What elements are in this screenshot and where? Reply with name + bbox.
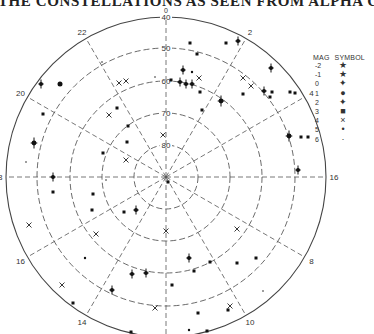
- star-marker: [228, 304, 233, 309]
- star-marker: [307, 136, 310, 139]
- star-marker: [101, 61, 103, 63]
- hour-spoke: [166, 38, 246, 177]
- hour-label: 20: [16, 89, 25, 98]
- star-marker: [84, 257, 86, 259]
- star-marker: [201, 109, 204, 112]
- star-marker: [235, 227, 240, 232]
- star-marker: [236, 262, 239, 265]
- legend-row: 4×: [313, 116, 365, 125]
- star-marker: [105, 179, 107, 181]
- star-marker: [241, 76, 246, 81]
- star-marker: [50, 173, 55, 182]
- star-marker: [242, 93, 245, 96]
- legend-mag-value: 2: [313, 99, 333, 106]
- hour-label: 16: [16, 257, 25, 266]
- legend-mag-value: 1: [313, 90, 333, 97]
- star-marker: [183, 80, 188, 89]
- star-marker: [161, 133, 166, 138]
- hour-spoke: [86, 177, 166, 316]
- star-marker: [133, 206, 138, 215]
- star-marker: [116, 107, 119, 110]
- star-marker: [177, 78, 182, 87]
- star-marker: [153, 306, 158, 311]
- hour-label: 14: [78, 318, 87, 327]
- star-marker: [60, 283, 65, 288]
- star-marker: [58, 82, 63, 87]
- hour-spoke: [27, 97, 166, 177]
- legend-mag-value: -2: [313, 62, 333, 69]
- magnitude-legend: MAG SYMBOL -2★-1★0✦1●2✦3■4×5•6·: [313, 54, 365, 144]
- legend-mag-value: 3: [313, 108, 333, 115]
- star-marker: [199, 91, 202, 94]
- star-marker: [225, 42, 228, 45]
- legend-mag-value: 0: [313, 80, 333, 87]
- hour-spoke: [86, 38, 166, 177]
- legend-row: 2✦: [313, 98, 365, 107]
- star-marker: [196, 53, 199, 56]
- star-marker: [289, 91, 292, 94]
- star-marker: [126, 141, 129, 144]
- star-marker: [249, 84, 254, 89]
- star-marker: [31, 138, 38, 149]
- hour-spoke: [166, 177, 246, 316]
- hour-spoke: [166, 97, 305, 177]
- legend-row: 3■: [313, 107, 365, 116]
- star-marker: [91, 209, 94, 212]
- star-marker: [127, 125, 130, 128]
- star-marker: [191, 71, 193, 73]
- star-marker: [167, 181, 170, 184]
- star-marker: [72, 302, 75, 305]
- star-marker: [94, 232, 99, 237]
- star-marker: [171, 284, 174, 287]
- star-marker: [123, 211, 126, 214]
- hour-label: 8: [309, 257, 314, 266]
- star-marker: [227, 309, 230, 312]
- star-marker: [109, 286, 114, 295]
- hour-label: 16: [330, 173, 339, 182]
- star-marker: [189, 42, 192, 45]
- hour-label: 2: [248, 28, 253, 37]
- star-marker: [206, 330, 209, 333]
- legend-mag-header: MAG: [313, 54, 330, 61]
- star-marker: [262, 290, 264, 292]
- star-marker: [102, 152, 105, 155]
- star-marker: [143, 269, 148, 278]
- star-marker: [170, 79, 173, 82]
- hour-label: 0: [164, 7, 168, 14]
- star-marker: [42, 113, 45, 116]
- star-chart: 4050607080024168101416182022: [0, 0, 374, 334]
- star-marker: [124, 158, 129, 163]
- star-marker: [188, 329, 190, 331]
- star-marker: [197, 76, 202, 81]
- star-marker: [52, 191, 55, 194]
- star-marker: [186, 254, 191, 263]
- star-marker: [294, 92, 297, 95]
- hour-spoke: [166, 177, 305, 257]
- star-marker: [129, 270, 134, 279]
- hour-label: 10: [246, 318, 255, 327]
- star-marker: [271, 91, 274, 94]
- star-marker: [27, 223, 32, 228]
- star-marker: [261, 87, 266, 96]
- star-marker: [286, 131, 293, 142]
- star-marker: [255, 257, 258, 260]
- hour-label: 18: [0, 173, 3, 182]
- legend-row: 0✦: [313, 79, 365, 88]
- legend-row: 5•: [313, 125, 365, 134]
- star-marker: [269, 96, 272, 99]
- star-marker: [117, 81, 122, 86]
- legend-row: 6·: [313, 135, 365, 144]
- legend-mag-value: 5: [313, 126, 333, 133]
- legend-mag-value: 4: [313, 117, 333, 124]
- star-marker: [130, 331, 133, 334]
- star-marker: [25, 161, 27, 163]
- legend-mag-value: 6: [313, 136, 333, 143]
- star-marker: [193, 270, 196, 273]
- star-marker: [92, 193, 95, 196]
- hour-label: 22: [78, 28, 87, 37]
- star-marker: [268, 64, 273, 73]
- star-symbol-icon: ·: [333, 135, 353, 144]
- star-marker: [209, 261, 212, 264]
- star-marker: [180, 66, 185, 75]
- star-marker: [124, 79, 129, 84]
